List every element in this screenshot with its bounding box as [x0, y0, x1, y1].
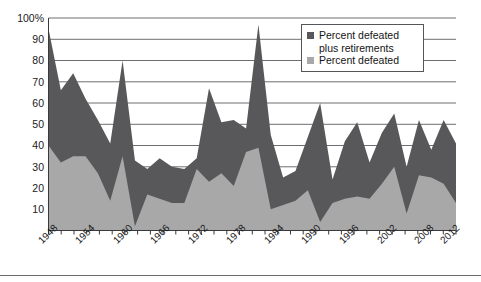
legend-swatch-light-icon — [307, 57, 314, 64]
legend-item-defeated-plus-retirements-cont: plus retirements — [307, 42, 418, 55]
legend-label-defeated: Percent defeated — [319, 54, 399, 67]
legend-item-defeated-plus-retirements: Percent defeated — [307, 29, 418, 42]
legend-label-line1: Percent defeated — [319, 29, 399, 42]
chart-legend: Percent defeated plus retirements Percen… — [301, 24, 424, 72]
footer-divider — [0, 275, 481, 276]
area-chart: 100% 90 80 70 60 50 40 30 20 10 1948 195… — [0, 0, 481, 282]
legend-swatch-dark-icon — [307, 32, 314, 39]
legend-label-line2: plus retirements — [319, 42, 394, 55]
legend-item-defeated: Percent defeated — [307, 54, 418, 67]
